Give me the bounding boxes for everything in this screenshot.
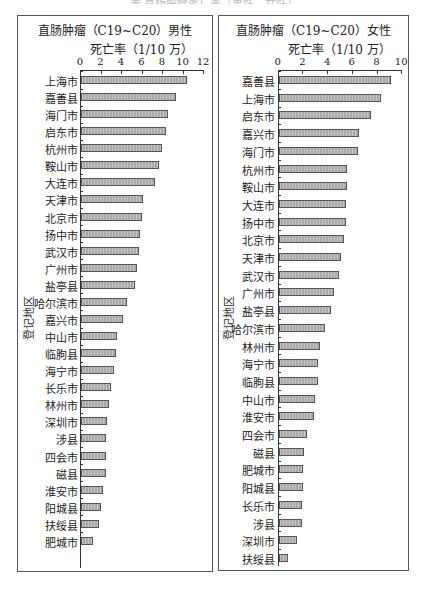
x-tick [377, 70, 378, 74]
bar [81, 383, 111, 391]
category-label: 广州市 [8, 261, 78, 277]
y-tick [80, 464, 83, 465]
y-axis-line [278, 70, 279, 566]
bar [81, 178, 155, 186]
x-axis-line [278, 70, 402, 71]
bar [279, 165, 348, 173]
category-label: 海宁市 [205, 356, 275, 372]
y-tick [278, 354, 281, 355]
y-tick [80, 293, 83, 294]
category-label: 扬中市 [8, 227, 78, 243]
y-tick [80, 379, 83, 380]
bar [81, 400, 109, 408]
y-tick [80, 447, 83, 448]
bar [279, 324, 326, 332]
y-tick [278, 230, 281, 231]
x-tick-label: 4 [118, 56, 124, 67]
y-tick [278, 142, 281, 143]
bar [279, 94, 381, 102]
category-label: 杭州市 [205, 162, 275, 178]
y-tick [278, 160, 281, 161]
y-tick [278, 266, 281, 267]
bar [279, 501, 303, 509]
bar [279, 377, 318, 385]
bar [81, 332, 117, 340]
y-tick [278, 124, 281, 125]
category-label: 上海市 [205, 91, 275, 107]
category-label: 磁县 [205, 445, 275, 461]
x-tick-label: 6 [138, 56, 144, 67]
x-tick [101, 70, 102, 74]
bar [81, 366, 114, 374]
category-label: 天津市 [8, 192, 78, 208]
y-tick [278, 407, 281, 408]
y-tick [278, 461, 281, 462]
x-tick [162, 70, 163, 74]
bar [81, 264, 137, 272]
x-tick [401, 70, 402, 74]
category-label: 淮安市 [8, 483, 78, 499]
category-label: 阳城县 [8, 500, 78, 516]
y-tick [80, 157, 83, 158]
x-tick-label: 6 [349, 56, 355, 67]
bar [81, 503, 101, 511]
bar [279, 554, 288, 562]
bar [81, 469, 106, 477]
bar [279, 218, 346, 226]
category-label: 淮安市 [205, 409, 275, 425]
category-label: 嘉善县 [205, 73, 275, 89]
x-tick [183, 70, 184, 74]
category-label: 深圳市 [205, 533, 275, 549]
category-label: 海门市 [205, 144, 275, 160]
bar [279, 448, 305, 456]
bar [279, 111, 371, 119]
y-tick [278, 301, 281, 302]
category-label: 阳城县 [205, 480, 275, 496]
bar [279, 359, 318, 367]
category-label: 四会市 [8, 449, 78, 465]
category-label: 涉县 [205, 516, 275, 532]
x-axis-label: 死亡率（1/10 万） [70, 40, 213, 57]
y-tick [80, 225, 83, 226]
x-tick-label: 0 [275, 56, 281, 67]
y-tick [80, 532, 83, 533]
bar [81, 93, 176, 101]
x-tick [121, 70, 122, 74]
bar [81, 434, 106, 442]
category-label: 涉县 [8, 431, 78, 447]
category-label: 武汉市 [8, 244, 78, 260]
x-tick-label: 4 [324, 56, 330, 67]
y-tick [278, 372, 281, 373]
category-label: 肥城市 [8, 534, 78, 550]
bar [279, 395, 316, 403]
x-tick-label: 8 [373, 56, 379, 67]
bar [279, 483, 303, 491]
y-tick [278, 213, 281, 214]
y-tick [278, 89, 281, 90]
category-label: 中山市 [205, 392, 275, 408]
bar [81, 230, 140, 238]
y-tick [80, 242, 83, 243]
bar [81, 161, 159, 169]
category-label: 林州市 [205, 339, 275, 355]
y-tick [80, 191, 83, 192]
category-label: 扶绥县 [205, 551, 275, 567]
y-tick [278, 107, 281, 108]
bar [81, 213, 142, 221]
y-tick [278, 319, 281, 320]
bar [81, 486, 103, 494]
category-label: 临朐县 [205, 374, 275, 390]
x-tick [203, 70, 204, 74]
y-tick [80, 481, 83, 482]
category-label: 大连市 [8, 175, 78, 191]
category-label: 磁县 [8, 466, 78, 482]
bar [81, 417, 107, 425]
y-tick [278, 195, 281, 196]
bar [81, 127, 166, 135]
category-label: 北京市 [8, 210, 78, 226]
y-tick [80, 123, 83, 124]
bar [279, 465, 303, 473]
y-tick [278, 549, 281, 550]
y-tick [80, 515, 83, 516]
bar [279, 430, 307, 438]
